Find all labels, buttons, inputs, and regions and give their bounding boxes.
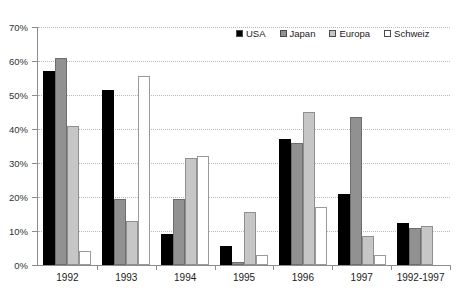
bar-schweiz: [138, 76, 150, 265]
y-axis-tick-label: 40%: [9, 124, 28, 135]
bar-usa: [397, 223, 409, 266]
bar-chart: USAJapanEuropaSchweiz 0%10%20%30%40%50%6…: [0, 0, 457, 290]
y-axis-tick-label: 10%: [9, 226, 28, 237]
bar-group: [97, 27, 156, 265]
x-axis-tick: [450, 265, 451, 270]
x-axis-tick: [273, 265, 274, 270]
bar-group: [332, 27, 391, 265]
bar-group: [215, 27, 274, 265]
x-axis-tick-label: 1992: [56, 272, 78, 283]
bar-usa: [161, 234, 173, 265]
bar-schweiz: [197, 156, 209, 265]
y-axis-tick-label: 20%: [9, 192, 28, 203]
bar-schweiz: [315, 207, 327, 265]
bar-group: [156, 27, 215, 265]
bar-europa: [303, 112, 315, 265]
bar-japan: [350, 117, 362, 265]
bar-schweiz: [256, 255, 268, 265]
x-axis-tick: [97, 265, 98, 270]
y-axis-tick-label: 70%: [9, 22, 28, 33]
bar-usa: [220, 246, 232, 265]
x-axis-tick-label: 1993: [115, 272, 137, 283]
y-axis-tick-label: 50%: [9, 90, 28, 101]
bar-europa: [126, 221, 138, 265]
bar-usa: [338, 194, 350, 265]
bar-europa: [67, 126, 79, 265]
x-axis-tick: [391, 265, 392, 270]
x-axis-line: [37, 265, 451, 266]
y-axis-tick-label: 30%: [9, 158, 28, 169]
x-axis-tick: [332, 265, 333, 270]
y-axis-tick: [32, 129, 37, 130]
y-axis-tick: [32, 95, 37, 96]
bar-group: [391, 27, 450, 265]
bar-usa: [279, 139, 291, 265]
y-axis-tick: [32, 27, 37, 28]
x-axis-tick-label: 1992-1997: [397, 272, 445, 283]
bar-usa: [102, 90, 114, 265]
bar-europa: [362, 236, 374, 265]
y-axis-tick: [32, 163, 37, 164]
bar-schweiz: [374, 255, 386, 265]
bar-japan: [55, 58, 67, 265]
y-axis-tick: [32, 265, 37, 266]
x-axis-tick-label: 1994: [174, 272, 196, 283]
y-axis-tick: [32, 61, 37, 62]
plot-area: [38, 27, 450, 265]
bar-europa: [244, 212, 256, 265]
bar-europa: [421, 226, 433, 265]
bar-group: [273, 27, 332, 265]
y-axis-tick-label: 60%: [9, 56, 28, 67]
x-axis-tick-label: 1996: [292, 272, 314, 283]
bar-schweiz: [79, 251, 91, 265]
bar-usa: [43, 71, 55, 265]
x-axis-tick-label: 1997: [351, 272, 373, 283]
y-axis-line: [37, 27, 38, 266]
bar-europa: [185, 158, 197, 265]
y-axis-tick: [32, 231, 37, 232]
x-axis-tick: [215, 265, 216, 270]
bar-group: [38, 27, 97, 265]
y-axis-tick-label: 0%: [14, 260, 28, 271]
x-axis-tick: [156, 265, 157, 270]
bar-japan: [409, 228, 421, 265]
x-axis-tick-label: 1995: [233, 272, 255, 283]
bar-japan: [291, 143, 303, 265]
bar-japan: [173, 199, 185, 265]
y-axis-tick: [32, 197, 37, 198]
bar-japan: [114, 199, 126, 265]
